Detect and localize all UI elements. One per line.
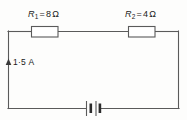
resistor-2-subscript: 2 bbox=[132, 13, 136, 20]
current-unit: A bbox=[28, 57, 34, 67]
resistor-2-symbol-text: R bbox=[125, 9, 132, 19]
resistor-2-symbol bbox=[129, 27, 156, 38]
series-circuit-diagram: R1=8Ω R2=4Ω 1·5 A bbox=[0, 0, 187, 120]
current-arrow-icon bbox=[6, 59, 12, 66]
resistor-1-label: R1=8Ω bbox=[28, 10, 59, 19]
battery-plate-short-2 bbox=[99, 104, 102, 114]
resistor-1-subscript: 1 bbox=[35, 13, 39, 20]
resistor-1-equals: = bbox=[39, 9, 46, 19]
current-value: 1·5 bbox=[13, 57, 26, 67]
current-label: 1·5 A bbox=[13, 58, 34, 67]
battery-symbol bbox=[87, 101, 102, 116]
resistor-1-symbol bbox=[32, 27, 59, 38]
resistor-2-equals: = bbox=[136, 9, 143, 19]
resistor-1-symbol-text: R bbox=[28, 9, 35, 19]
resistor-2-unit: Ω bbox=[148, 9, 156, 19]
resistor-1-unit: Ω bbox=[51, 9, 59, 19]
resistor-2-label: R2=4Ω bbox=[125, 10, 156, 19]
battery-plate-short-1 bbox=[90, 104, 93, 114]
